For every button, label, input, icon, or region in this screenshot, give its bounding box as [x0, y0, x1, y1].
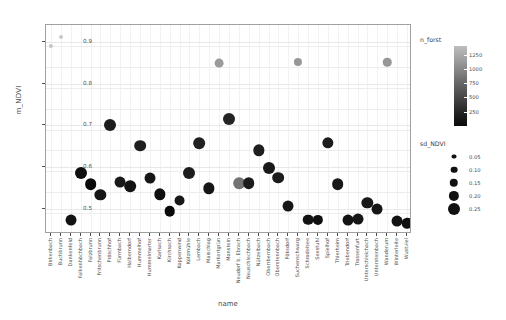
- data-point: [332, 178, 344, 190]
- grid-line-horizontal: [46, 42, 410, 43]
- x-axis-tick-mark: [366, 233, 367, 236]
- x-axis-tick-mark: [60, 233, 61, 236]
- color-legend-tick-label: 1250: [469, 52, 482, 58]
- x-axis-tick-label: Lembach: [195, 238, 201, 261]
- grid-line-vertical: [140, 25, 141, 232]
- x-axis-tick-mark: [287, 233, 288, 236]
- x-axis-tick-label: Unterschleichach: [363, 238, 369, 281]
- grid-line-vertical: [249, 25, 250, 232]
- grid-line-vertical: [170, 25, 171, 232]
- size-legend-row: 0.05: [420, 150, 506, 163]
- grid-line-vertical: [259, 25, 260, 232]
- grid-line-horizontal: [46, 167, 410, 168]
- grid-line-horizontal: [46, 125, 410, 126]
- y-axis-tick-label: 0.8: [52, 80, 92, 86]
- data-point: [144, 172, 155, 183]
- x-axis-tick-label: Spielhof: [324, 238, 330, 258]
- y-axis-tick-label: 0.9: [52, 38, 92, 44]
- x-axis-tick-mark: [139, 233, 140, 236]
- legend-group: n_forst 12501000750500250 sd_NDVI 0.050.…: [420, 36, 506, 215]
- x-axis-tick-label: Karlsach: [156, 238, 162, 259]
- x-axis-tick-mark: [80, 233, 81, 236]
- x-axis-tick-mark: [179, 233, 180, 236]
- color-legend-tick-mark: [464, 97, 468, 98]
- size-legend-dot: [450, 178, 458, 186]
- grid-line-horizontal: [46, 67, 410, 68]
- size-legend-label: 0.10: [469, 167, 481, 173]
- size-legend-label: 0.20: [469, 193, 481, 199]
- x-axis-tick-label: Triebendorf: [344, 238, 350, 266]
- x-axis-tick-label: Fürmbach: [116, 238, 122, 263]
- x-axis-tick-mark: [317, 233, 318, 236]
- x-axis-tick-label: Thierheim: [334, 238, 340, 263]
- x-axis-tick-label: Kirchsach: [166, 238, 172, 262]
- grid-line-horizontal: [46, 171, 410, 172]
- size-legend-row: 0.20: [420, 189, 506, 202]
- color-legend-tick-label: 750: [469, 80, 479, 86]
- size-legend-label: 0.15: [469, 180, 481, 186]
- data-point: [383, 58, 391, 66]
- x-axis-tick-mark: [406, 233, 407, 236]
- x-axis-tick-label: Halberndorf: [126, 238, 132, 268]
- data-point: [154, 189, 165, 200]
- x-axis-tick-label: Trossenfurt: [354, 238, 360, 266]
- x-axis-tick-mark: [208, 233, 209, 236]
- data-point: [85, 178, 97, 190]
- grid-line-vertical: [130, 25, 131, 232]
- data-point: [49, 44, 53, 48]
- x-axis-tick-mark: [337, 233, 338, 236]
- grid-line-horizontal: [46, 84, 410, 85]
- x-axis-tick-label: Neuschlechbach: [245, 238, 251, 279]
- data-point: [174, 195, 185, 206]
- x-axis-tick-label: Hummelhof: [136, 238, 142, 267]
- data-point: [273, 172, 285, 184]
- size-legend-rows: 0.050.100.150.200.25: [420, 150, 506, 215]
- grid-line-horizontal: [46, 150, 410, 151]
- x-axis-title: name: [45, 300, 411, 308]
- x-axis-tick-label: Untersteinbach: [373, 238, 379, 276]
- data-point: [294, 58, 302, 66]
- grid-line-vertical: [407, 25, 408, 232]
- y-axis-tick-mark: [42, 41, 45, 42]
- grid-line-vertical: [189, 25, 190, 232]
- x-axis-tick-label: Nützelbach: [255, 238, 261, 266]
- data-point: [313, 215, 323, 225]
- size-legend-label: 0.25: [469, 206, 481, 212]
- x-axis-tick-mark: [50, 233, 51, 236]
- data-point: [352, 213, 363, 224]
- x-axis-tick-label: Winterleite: [393, 238, 399, 265]
- x-axis-tick-mark: [119, 233, 120, 236]
- y-axis-title: m_NDVI: [15, 55, 23, 145]
- data-point: [372, 204, 383, 215]
- x-axis-tick-mark: [99, 233, 100, 236]
- color-legend-tick-label: 250: [469, 109, 479, 115]
- color-legend-tick-label: 500: [469, 94, 479, 100]
- grid-line-vertical: [51, 25, 52, 232]
- size-legend: sd_NDVI 0.050.100.150.200.25: [420, 140, 506, 215]
- grid-line-horizontal: [46, 130, 410, 131]
- y-axis-tick-label: 0.7: [52, 121, 92, 127]
- x-axis-tick-mark: [268, 233, 269, 236]
- grid-line-vertical: [318, 25, 319, 232]
- x-axis-tick-label: Falkenhöchbach: [77, 238, 83, 278]
- x-axis-tick-label: Koppenwind: [176, 238, 182, 269]
- x-axis-tick-label: Markertgrün: [215, 238, 221, 269]
- x-axis-tick-mark: [149, 233, 150, 236]
- grid-line-vertical: [338, 25, 339, 232]
- x-axis-tick-label: Kotzmühle: [185, 238, 191, 264]
- grid-line-horizontal: [46, 46, 410, 47]
- grid-line-vertical: [308, 25, 309, 232]
- grid-line-horizontal: [46, 88, 410, 89]
- y-axis-tick-mark: [42, 166, 45, 167]
- grid-line-vertical: [150, 25, 151, 232]
- x-axis-tick-mark: [218, 233, 219, 236]
- color-legend-title: n_forst: [420, 36, 506, 43]
- grid-line-vertical: [199, 25, 200, 232]
- x-axis-tick-mark: [159, 233, 160, 236]
- x-axis-tick-label: Dankenfeld: [67, 238, 73, 266]
- x-axis-tick-mark: [198, 233, 199, 236]
- x-axis-tick-label: Monstein: [225, 238, 231, 261]
- x-axis-tick-mark: [129, 233, 130, 236]
- x-axis-tick-label: Pröschhof: [106, 238, 112, 262]
- x-axis-tick-label: Falzbrunn: [87, 238, 93, 262]
